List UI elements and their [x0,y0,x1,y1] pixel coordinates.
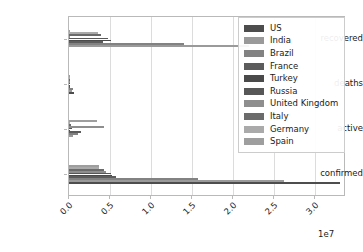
bar-germany-recovered [69,32,98,34]
bar-spain-confirmed [69,165,99,167]
legend-label: Spain [270,137,294,146]
chart-figure: recovereddeathsactiveconfirmed 0.00.51.0… [0,0,363,252]
legend-swatch-icon [244,88,264,95]
y-tick-mark [64,84,67,85]
bar-us-deaths [69,92,74,94]
legend-label: Italy [270,112,288,121]
bar-germany-deaths [69,77,70,79]
x-tick-mark [273,196,274,199]
legend-item-india[interactable]: India [244,35,339,48]
bar-russia-active [69,128,72,130]
legend-swatch-icon [244,25,264,32]
x-tick-label: 0.0 [58,200,75,217]
legend-swatch-icon [244,37,264,44]
bar-france-active [69,131,81,133]
x-tick-mark [150,196,151,199]
legend-item-germany[interactable]: Germany [244,123,339,136]
bar-france-deaths [69,86,70,88]
bar-brazil-recovered [69,43,184,45]
legend-swatch-icon [244,126,264,133]
y-tick-mark [64,174,67,175]
legend-label: Russia [270,87,297,96]
legend-item-russia[interactable]: Russia [244,85,339,98]
legend-item-italy[interactable]: Italy [244,110,339,123]
bar-russia-recovered [69,38,108,40]
x-tick-label: 3.0 [304,200,321,217]
bar-france-recovered [69,41,103,43]
x-tick-label: 1.0 [140,200,157,217]
legend-swatch-icon [244,50,264,57]
x-tick-label: 2.5 [263,200,280,217]
x-tick-mark [68,196,69,199]
x-tick-mark [232,196,233,199]
bar-france-confirmed [69,176,116,178]
bar-india-recovered [69,45,249,47]
legend-label: India [270,36,291,45]
bar-brazil-deaths [69,88,73,90]
legend-label: France [270,62,298,71]
legend-label: Brazil [270,49,294,58]
legend-swatch-icon [244,100,264,107]
legend-item-france[interactable]: France [244,60,339,73]
x-axis-offset-label: 1e7 [318,229,334,239]
x-tick-mark [314,196,315,199]
legend-swatch-icon [244,113,264,120]
bar-united-kingdom-active [69,126,104,128]
legend-label: United Kingdom [270,99,338,108]
y-tick-mark [64,39,67,40]
y-tick-label: confirmed [301,169,363,178]
bar-india-active [69,135,73,137]
x-tick-label: 0.5 [99,200,116,217]
bar-spain-recovered [69,30,70,32]
legend-swatch-icon [244,63,264,70]
bar-brazil-confirmed [69,178,198,180]
x-tick-mark [191,196,192,199]
legend-item-brazil[interactable]: Brazil [244,47,339,60]
bar-italy-confirmed [69,169,104,171]
x-tick-label: 2.0 [222,200,239,217]
legend-label: Turkey [270,74,298,83]
bar-united-kingdom-confirmed [69,171,106,173]
chart-legend[interactable]: USIndiaBrazilFranceTurkeyRussiaUnited Ki… [238,17,345,153]
bar-united-kingdom-deaths [69,81,70,83]
legend-item-turkey[interactable]: Turkey [244,72,339,85]
legend-label: US [270,24,282,33]
bar-italy-recovered [69,34,101,36]
bar-italy-active [69,124,71,126]
bar-india-confirmed [69,180,284,182]
bar-united-kingdom-recovered [69,36,70,38]
legend-swatch-icon [244,138,264,145]
legend-item-us[interactable]: US [244,22,339,35]
legend-item-spain[interactable]: Spain [244,135,339,148]
bar-india-deaths [69,90,72,92]
y-tick-mark [64,129,67,130]
bar-germany-active [69,122,70,124]
bar-spain-deaths [69,75,70,77]
bar-turkey-deaths [69,85,70,87]
bar-brazil-active [69,133,78,135]
bar-turkey-confirmed [69,175,112,177]
bar-russia-confirmed [69,173,111,175]
bar-us-confirmed [69,182,340,184]
bar-italy-deaths [69,79,70,81]
bar-russia-deaths [69,83,70,85]
bar-spain-active [69,120,97,122]
bar-turkey-recovered [69,40,111,42]
legend-label: Germany [270,125,309,134]
bar-turkey-active [69,130,70,132]
legend-swatch-icon [244,75,264,82]
x-tick-mark [109,196,110,199]
legend-item-united-kingdom[interactable]: United Kingdom [244,98,339,111]
x-tick-label: 1.5 [181,200,198,217]
bar-germany-confirmed [69,167,99,169]
